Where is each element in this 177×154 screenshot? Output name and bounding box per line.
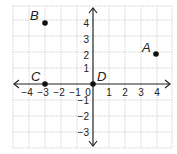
- svg-text:2: 2: [122, 87, 128, 98]
- point-b: B: [30, 8, 48, 26]
- x-tick-labels: −4 −3 −2 −1 0 1 2 3 4: [21, 87, 160, 98]
- coordinate-plane: −4 −3 −2 −1 0 1 2 3 4 4 3 2 1 −1 −2 −3 B…: [0, 0, 177, 154]
- svg-text:1: 1: [106, 87, 112, 98]
- point-a: A: [141, 40, 159, 57]
- svg-text:−1: −1: [78, 95, 90, 106]
- svg-text:4: 4: [83, 18, 89, 29]
- svg-text:−2: −2: [78, 111, 90, 122]
- y-tick-labels: 4 3 2 1 −1 −2 −3: [78, 18, 90, 138]
- svg-text:D: D: [97, 69, 106, 84]
- svg-text:−3: −3: [78, 127, 90, 138]
- svg-text:B: B: [30, 8, 39, 23]
- svg-text:3: 3: [83, 34, 89, 45]
- svg-text:1: 1: [83, 63, 89, 74]
- y-axis: [89, 8, 97, 146]
- svg-text:3: 3: [138, 87, 144, 98]
- svg-text:C: C: [31, 69, 41, 84]
- svg-text:−2: −2: [53, 87, 65, 98]
- svg-text:−3: −3: [37, 87, 49, 98]
- svg-text:−4: −4: [21, 87, 33, 98]
- svg-text:2: 2: [83, 50, 89, 61]
- svg-text:4: 4: [154, 87, 160, 98]
- svg-text:A: A: [141, 40, 151, 55]
